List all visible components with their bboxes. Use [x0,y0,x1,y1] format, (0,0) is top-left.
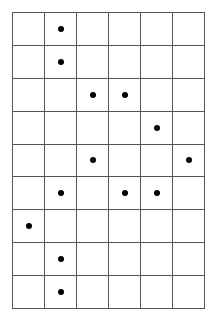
dot-marker [26,223,32,229]
dot-marker [186,157,192,163]
grid-cell [173,13,205,46]
dot-marker [122,92,128,98]
dot-marker [122,190,128,196]
grid-cell [109,79,141,112]
grid-cell [45,79,77,112]
grid-cell [77,276,109,309]
grid-cell [109,112,141,145]
dot-grid [12,12,205,309]
grid-cell [141,46,173,79]
grid-cell [77,243,109,276]
grid-cell [141,276,173,309]
grid-cell [45,177,77,210]
grid-cell [45,243,77,276]
grid-cell [173,177,205,210]
grid-cell [173,46,205,79]
grid-cell [77,112,109,145]
grid-cell [77,210,109,243]
grid-cell [173,79,205,112]
grid-cell [45,210,77,243]
grid-cell [173,276,205,309]
dot-marker [58,190,64,196]
dot-marker [58,26,64,32]
grid-cell [109,243,141,276]
grid-cell [173,112,205,145]
grid-cell [77,145,109,178]
grid-cell [109,145,141,178]
grid-cell [141,13,173,46]
grid-cell [141,112,173,145]
grid-cell [13,112,45,145]
grid-cell [77,13,109,46]
grid-cell [45,145,77,178]
grid-cell [13,177,45,210]
grid-cell [77,46,109,79]
grid-cell [13,276,45,309]
grid-cell [13,243,45,276]
grid-cell [77,177,109,210]
grid-cell [45,276,77,309]
grid-cell [173,243,205,276]
grid-cell [13,46,45,79]
grid-cell [45,112,77,145]
grid-cell [109,46,141,79]
grid-cell [109,276,141,309]
grid-cell [141,145,173,178]
dot-marker [58,59,64,65]
grid-cell [173,145,205,178]
grid-cell [109,177,141,210]
grid-cell [77,79,109,112]
grid-cell [109,210,141,243]
dot-marker [58,289,64,295]
dot-marker [90,157,96,163]
dot-marker [90,92,96,98]
grid-cell [141,79,173,112]
dot-marker [154,190,160,196]
grid-cell [141,243,173,276]
grid-cell [141,177,173,210]
grid-cell [109,13,141,46]
grid-cell [13,145,45,178]
grid-cell [45,13,77,46]
grid-cell [173,210,205,243]
grid-cell [13,13,45,46]
grid-cell [13,210,45,243]
dot-marker [154,125,160,131]
grid-cell [13,79,45,112]
grid-cell [45,46,77,79]
dot-marker [58,256,64,262]
grid-cell [141,210,173,243]
